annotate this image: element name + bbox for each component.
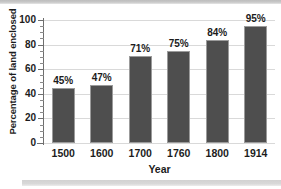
y-tick-minor	[40, 75, 44, 76]
y-tick-minor	[40, 131, 44, 132]
y-tick-label: 60	[8, 63, 36, 74]
y-tick-label: 0	[8, 137, 36, 148]
y-tick-minor	[40, 26, 44, 27]
gridline	[44, 118, 275, 119]
page-band-bottom-decoration	[22, 180, 281, 186]
gridline	[44, 94, 275, 95]
gridline	[44, 143, 275, 144]
y-tick-minor	[40, 32, 44, 33]
bar-value-label: 47%	[82, 72, 122, 83]
gridline	[44, 69, 275, 70]
bar	[52, 88, 75, 143]
y-tick-mark	[38, 45, 44, 46]
x-axis-title: Year	[44, 163, 275, 175]
y-tick-minor	[40, 112, 44, 113]
y-tick-minor	[40, 125, 44, 126]
y-tick-minor	[40, 57, 44, 58]
y-tick-mark	[38, 143, 44, 144]
y-tick-minor	[40, 82, 44, 83]
bar-value-label: 84%	[197, 27, 237, 38]
y-tick-mark	[38, 94, 44, 95]
y-tick-minor	[40, 38, 44, 39]
y-tick-label: 80	[8, 39, 36, 50]
bar	[167, 51, 190, 143]
y-tick-minor	[40, 88, 44, 89]
bar	[129, 56, 152, 143]
y-tick-mark	[38, 69, 44, 70]
y-tick-minor	[40, 106, 44, 107]
bar-value-label: 75%	[159, 38, 199, 49]
y-tick-minor	[40, 100, 44, 101]
bar	[206, 40, 229, 143]
y-tick-minor	[40, 137, 44, 138]
y-tick-mark	[38, 118, 44, 119]
y-tick-mark	[38, 20, 44, 21]
y-tick-minor	[40, 63, 44, 64]
y-tick-label: 20	[8, 112, 36, 123]
page-band-top-decoration	[0, 0, 281, 4]
plot-area: 45%47%71%75%84%95%	[44, 20, 275, 143]
chart-figure: Percentage of land enclosed 45%47%71%75%…	[0, 0, 281, 189]
y-tick-label: 100	[8, 14, 36, 25]
bar-value-label: 71%	[120, 43, 160, 54]
y-tick-label: 40	[8, 88, 36, 99]
x-tick-label: 1914	[233, 147, 279, 159]
y-tick-minor	[40, 51, 44, 52]
bar	[244, 26, 267, 143]
bar-value-label: 45%	[43, 75, 83, 86]
bar-value-label: 95%	[236, 13, 276, 24]
bar	[90, 85, 113, 143]
